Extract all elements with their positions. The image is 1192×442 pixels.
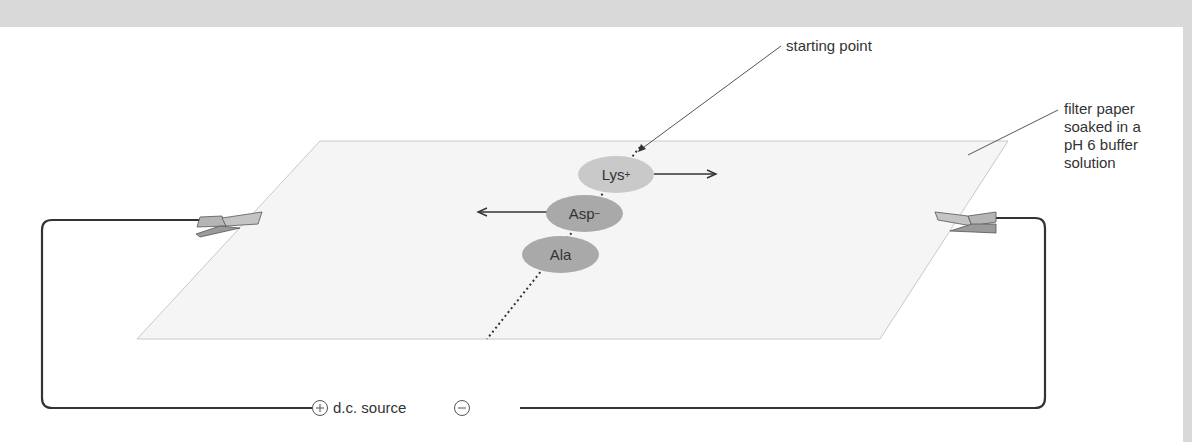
dc-source-label: d.c. source <box>333 399 406 417</box>
spot-lys: Lys+ <box>578 156 654 193</box>
starting-point-label: starting point <box>786 37 872 55</box>
negative-terminal-icon <box>455 401 470 416</box>
spot-ala: Ala <box>522 236 599 273</box>
positive-terminal-icon <box>313 401 328 416</box>
spot-asp: Asp− <box>546 195 623 232</box>
filter-paper-pointer <box>968 110 1058 155</box>
starting-point-pointer <box>640 46 781 150</box>
filter-paper-label: filter paper soaked in a pH 6 buffer sol… <box>1064 100 1141 172</box>
